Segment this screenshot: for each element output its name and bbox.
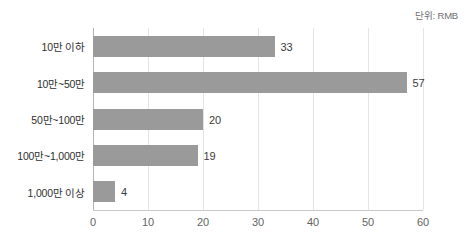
x-axis-line <box>93 210 423 211</box>
gridline-60 <box>423 28 424 210</box>
bar-value-label-2: 57 <box>413 77 425 89</box>
gridline-50 <box>368 28 369 210</box>
x-tick-label-50: 50 <box>362 216 374 228</box>
bar-2[interactable] <box>93 72 407 93</box>
bar-5[interactable] <box>93 181 115 202</box>
bar-row: 20 <box>93 109 263 130</box>
bar-value-label-1: 33 <box>281 41 293 53</box>
bar-value-label-4: 19 <box>204 150 216 162</box>
x-tick-label-30: 30 <box>252 216 264 228</box>
x-tick-label-10: 10 <box>142 216 154 228</box>
chart-canvas: 단위: RMB 3310만 이하5710만~50만2050만~100만19100… <box>0 0 468 252</box>
category-label-5: 1,000만 이상 <box>28 185 85 200</box>
bar-row: 57 <box>93 72 467 93</box>
bar-1[interactable] <box>93 36 275 57</box>
bar-value-label-3: 20 <box>209 114 221 126</box>
bar-3[interactable] <box>93 109 203 130</box>
category-label-4: 100만~1,000만 <box>17 148 85 163</box>
bar-value-label-5: 4 <box>121 186 127 198</box>
bar-row: 33 <box>93 36 335 57</box>
x-tick-label-60: 60 <box>417 216 429 228</box>
bar-row: 19 <box>93 145 258 166</box>
x-tick-label-20: 20 <box>197 216 209 228</box>
bar-row: 4 <box>93 181 175 202</box>
x-tick-label-0: 0 <box>90 216 96 228</box>
category-label-3: 50만~100만 <box>31 112 85 127</box>
unit-annotation: 단위: RMB <box>415 8 458 22</box>
category-label-1: 10만 이하 <box>42 39 85 54</box>
x-tick-label-40: 40 <box>307 216 319 228</box>
bar-4[interactable] <box>93 145 198 166</box>
category-label-2: 10만~50만 <box>37 76 85 91</box>
